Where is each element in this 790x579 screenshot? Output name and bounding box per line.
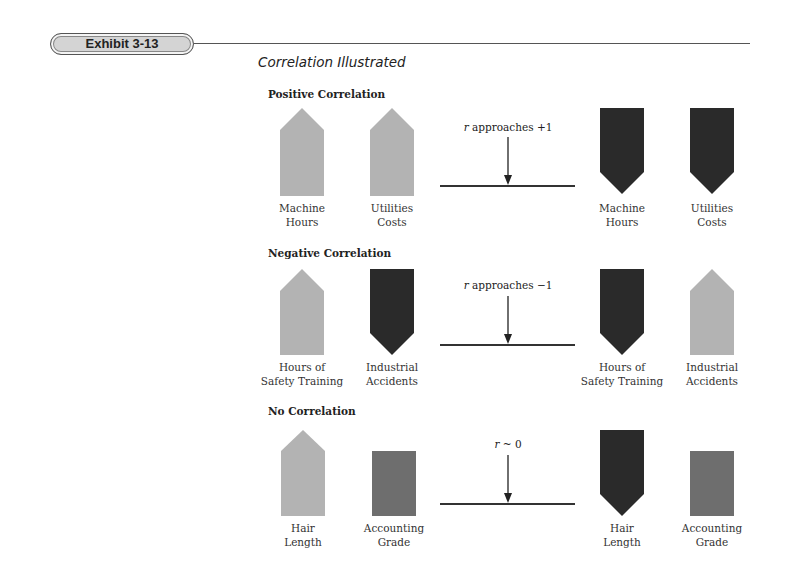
arrow-up-shape-industrial-accidents	[690, 269, 734, 355]
down-arrow-icon	[503, 137, 513, 185]
label-hair-length: Hair Length	[577, 521, 667, 549]
rectangle-shape-accounting-grade	[372, 451, 416, 516]
arrow-up-shape-hours-of-safety-training	[280, 269, 324, 355]
label-industrial-accidents: Industrial Accidents	[347, 360, 437, 388]
label-utilities-costs: Utilities Costs	[667, 201, 757, 229]
arrow-down-shape-utilities-costs	[690, 108, 734, 194]
down-arrow-icon	[503, 296, 513, 344]
arrow-up-shape-hair-length	[281, 430, 325, 516]
label-accounting-grade: Accounting Grade	[667, 521, 757, 549]
section-title: No Correlation	[268, 405, 356, 417]
label-hours-of-safety-training: Hours of Safety Training	[577, 360, 667, 388]
page-title: Correlation Illustrated	[258, 54, 406, 70]
correlation-caption: r approaches +1	[438, 121, 578, 133]
rectangle-shape-accounting-grade	[690, 451, 734, 516]
section-title: Positive Correlation	[268, 88, 385, 100]
label-accounting-grade: Accounting Grade	[349, 521, 439, 549]
correlation-caption: r approaches −1	[438, 279, 578, 291]
label-hours-of-safety-training: Hours of Safety Training	[257, 360, 347, 388]
section-title: Negative Correlation	[268, 247, 391, 259]
down-arrow-icon	[503, 455, 513, 503]
baseline	[440, 185, 575, 187]
label-utilities-costs: Utilities Costs	[347, 201, 437, 229]
correlation-caption: r ~ 0	[438, 438, 578, 450]
label-industrial-accidents: Industrial Accidents	[667, 360, 757, 388]
baseline	[440, 503, 575, 505]
header-rule	[194, 43, 750, 44]
arrow-down-shape-machine-hours	[600, 108, 644, 194]
arrow-down-shape-hair-length	[600, 430, 644, 516]
arrow-down-shape-hours-of-safety-training	[600, 269, 644, 355]
exhibit-badge: Exhibit 3-13	[50, 33, 194, 55]
label-machine-hours: Machine Hours	[257, 201, 347, 229]
arrow-up-shape-utilities-costs	[370, 108, 414, 196]
label-machine-hours: Machine Hours	[577, 201, 667, 229]
arrow-down-shape-industrial-accidents	[370, 269, 414, 355]
label-hair-length: Hair Length	[258, 521, 348, 549]
baseline	[440, 344, 575, 346]
arrow-up-shape-machine-hours	[280, 108, 324, 196]
